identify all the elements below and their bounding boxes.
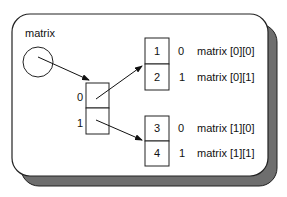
row1-label-0: matrix [1][0] [197,122,254,134]
matrix-variable-label: matrix [25,27,55,39]
row1-index-1: 1 [179,147,185,159]
row1-label-1: matrix [1][1] [197,147,254,159]
row0-label-0: matrix [0][0] [197,45,254,57]
pointer-cell-0 [86,83,109,108]
row1-index-0: 0 [178,122,184,134]
pointer-index-1: 1 [77,117,83,129]
row1-value-1: 4 [154,147,160,159]
row0-label-1: matrix [0][1] [197,71,254,83]
row0-index-0: 0 [178,45,184,57]
matrix-diagram: matrix 0 1 1 2 0 1 matrix [0][0] matrix … [0,0,287,197]
row1-value-0: 3 [154,122,160,134]
row0-index-1: 1 [179,71,185,83]
row0-value-1: 2 [154,71,160,83]
row0-value-0: 1 [154,45,160,57]
pointer-index-0: 0 [77,91,83,103]
